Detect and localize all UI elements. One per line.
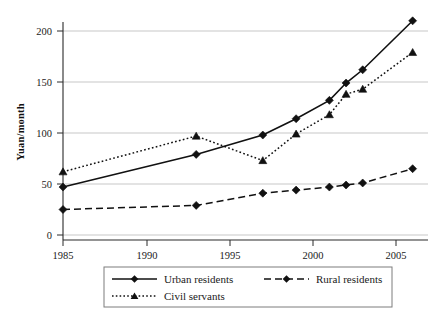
data-point-1985-civil-servants	[59, 168, 67, 175]
legend-swatch-rural-diamond-icon	[283, 275, 291, 283]
legend-entry-civil-servants[interactable]: Civil servants	[112, 290, 225, 302]
x-tick-label-2000: 2000	[303, 250, 324, 261]
y-tick-labels: 200 150 100 50 0	[36, 26, 52, 241]
x-tick-label-1990: 1990	[137, 250, 158, 261]
y-tick-label-100: 100	[36, 128, 52, 139]
series-rural-residents	[59, 165, 417, 214]
x-tick-label-1985: 1985	[53, 250, 74, 261]
data-point-2002-rural-residents	[342, 181, 350, 189]
data-point-1999-civil-servants	[292, 130, 300, 137]
line-chart-svg: 200 150 100 50 0 1985 1990 1995 2000 200…	[0, 0, 433, 316]
data-point-2002-civil-servants	[342, 90, 350, 97]
data-point-2006-civil-servants	[409, 49, 417, 56]
x-tick-label-2005: 2005	[386, 250, 407, 261]
data-point-2001-civil-servants	[325, 111, 333, 118]
y-tick-label-50: 50	[42, 179, 53, 190]
legend-label-urban-residents: Urban residents	[164, 273, 233, 285]
y-tick-label-150: 150	[36, 77, 52, 88]
data-point-1997-rural-residents	[259, 189, 267, 197]
legend-swatch-urban-diamond-icon	[131, 275, 139, 283]
x-tick-labels: 1985 1990 1995 2000 2005	[53, 250, 407, 261]
data-point-2003-rural-residents	[359, 179, 367, 187]
data-point-1993-urban-residents	[192, 150, 200, 158]
data-point-1985-rural-residents	[59, 206, 67, 214]
data-point-1999-urban-residents	[292, 115, 300, 123]
y-tick-label-0: 0	[47, 230, 52, 241]
data-point-1999-rural-residents	[292, 186, 300, 194]
y-axis-title: Yuan/month	[15, 103, 26, 161]
series-urban-residents	[59, 17, 417, 191]
legend-entry-rural-residents[interactable]: Rural residents	[264, 273, 382, 285]
legend-entry-urban-residents[interactable]: Urban residents	[112, 273, 233, 285]
legend: Urban residents Rural residents Civil se…	[104, 267, 392, 307]
axes	[57, 22, 428, 246]
legend-label-rural-residents: Rural residents	[316, 273, 382, 285]
legend-label-civil-servants: Civil servants	[164, 290, 225, 302]
y-tick-label-200: 200	[36, 26, 52, 37]
data-point-2006-rural-residents	[409, 165, 417, 173]
data-point-1993-rural-residents	[192, 201, 200, 209]
series-line-urban-residents	[63, 21, 413, 187]
gridlines	[63, 31, 428, 235]
chart-figure: 200 150 100 50 0 1985 1990 1995 2000 200…	[0, 0, 433, 316]
x-tick-label-1995: 1995	[220, 250, 241, 261]
data-point-1997-urban-residents	[259, 131, 267, 139]
